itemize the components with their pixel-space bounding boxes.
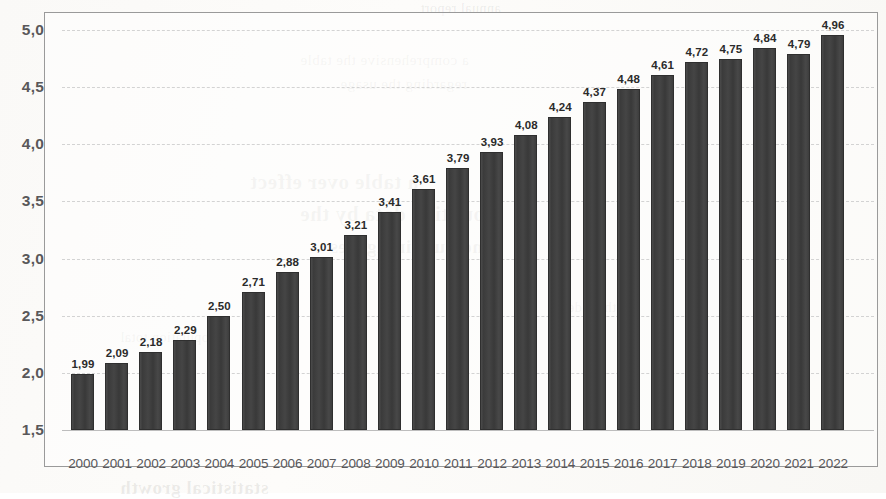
x-axis-tick-labels: 2000200120022003200420052006200720082009…	[56, 12, 878, 467]
x-axis-tick-slot: 2007	[305, 12, 339, 467]
x-axis-tick-slot: 2018	[680, 12, 714, 467]
x-axis-tick-slot: 2000	[66, 12, 100, 467]
y-axis-tick-label: 3,5	[10, 192, 44, 210]
x-axis-tick-slot: 2016	[612, 12, 646, 467]
x-axis-tick-slot: 2004	[202, 12, 236, 467]
y-axis-tick-label: 1,5	[10, 421, 44, 439]
x-axis-tick-slot: 2002	[134, 12, 168, 467]
x-axis-tick-slot: 2009	[373, 12, 407, 467]
x-axis-tick-slot: 2010	[407, 12, 441, 467]
bleed-through-text: statistical growth	[120, 477, 269, 499]
x-axis-tick-slot: 2019	[714, 12, 748, 467]
y-axis-tick-label: 4,0	[10, 135, 44, 153]
x-axis-tick-slot: 2006	[271, 12, 305, 467]
y-axis-tick-label: 2,0	[10, 364, 44, 382]
y-axis-tick-label: 2,5	[10, 307, 44, 325]
x-axis-tick-slot: 2003	[168, 12, 202, 467]
y-axis-tick-label: 4,5	[10, 78, 44, 96]
x-axis-tick-slot: 2015	[578, 12, 612, 467]
x-axis-tick-slot: 2022	[816, 12, 850, 467]
x-axis-tick-slot: 2014	[543, 12, 577, 467]
x-axis-tick-slot: 2011	[441, 12, 475, 467]
y-axis-tick-label: 5,0	[10, 21, 44, 39]
x-axis-tick-label: 2022	[812, 456, 854, 471]
x-axis-tick-slot: 2017	[646, 12, 680, 467]
x-axis-tick-slot: 2013	[509, 12, 543, 467]
x-axis-tick-slot: 2021	[782, 12, 816, 467]
x-axis-tick-slot: 2008	[339, 12, 373, 467]
y-axis-tick-label: 3,0	[10, 250, 44, 268]
bar-chart-plot-area: 5,04,54,03,53,02,52,01,5 1,992,092,182,2…	[56, 12, 878, 467]
x-axis-tick-slot: 2005	[237, 12, 271, 467]
x-axis-tick-slot: 2012	[475, 12, 509, 467]
x-axis-tick-slot: 2001	[100, 12, 134, 467]
x-axis-tick-slot: 2020	[748, 12, 782, 467]
